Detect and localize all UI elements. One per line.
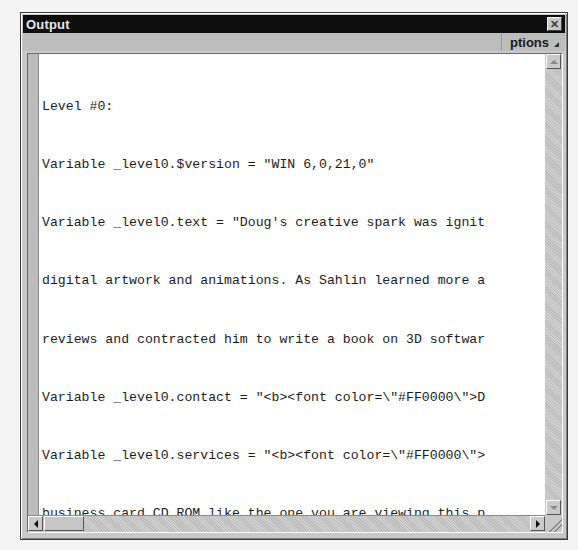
output-line: Variable _level0.$version = "WIN 6,0,21,… (42, 155, 545, 174)
arrow-left-icon (34, 520, 38, 528)
output-line: business card CD ROM like the one you ar… (42, 504, 545, 515)
scroll-up-button[interactable] (546, 54, 561, 69)
output-line: Variable _level0.contact = "<b><font col… (42, 388, 545, 407)
triangle-menu-icon (554, 42, 559, 47)
output-lines: Level #0: Variable _level0.$version = "W… (39, 54, 545, 515)
title-bar[interactable]: Output ✕ (23, 15, 565, 33)
options-label: ptions (510, 35, 549, 50)
arrow-down-icon (550, 506, 558, 510)
output-line: Level #0: (42, 97, 545, 116)
scroll-down-button[interactable] (546, 500, 561, 515)
scroll-left-button[interactable] (28, 516, 43, 531)
output-line: reviews and contracted him to write a bo… (42, 330, 545, 349)
output-line: Variable _level0.text = "Doug's creative… (42, 213, 545, 232)
left-gutter (28, 54, 39, 515)
panel-toolbar: ptions (23, 33, 565, 51)
arrow-up-icon (550, 60, 558, 64)
output-panel: Output ✕ ptions Level #0: Variable _leve… (20, 12, 568, 540)
output-content-frame: Level #0: Variable _level0.$version = "W… (27, 53, 563, 533)
close-button[interactable]: ✕ (547, 17, 562, 31)
horizontal-scrollbar[interactable] (28, 515, 545, 532)
options-menu-button[interactable]: ptions (501, 33, 565, 51)
scroll-right-button[interactable] (530, 516, 545, 531)
panel-title: Output (23, 17, 70, 32)
horizontal-scroll-thumb[interactable] (44, 516, 84, 531)
close-icon: ✕ (550, 18, 559, 30)
resize-grip-icon[interactable] (545, 515, 562, 532)
output-line: Variable _level0.services = "<b><font co… (42, 446, 545, 465)
arrow-right-icon (536, 520, 540, 528)
output-text-area[interactable]: Level #0: Variable _level0.$version = "W… (39, 54, 545, 515)
output-line: digital artwork and animations. As Sahli… (42, 271, 545, 290)
vertical-scrollbar[interactable] (545, 54, 562, 515)
